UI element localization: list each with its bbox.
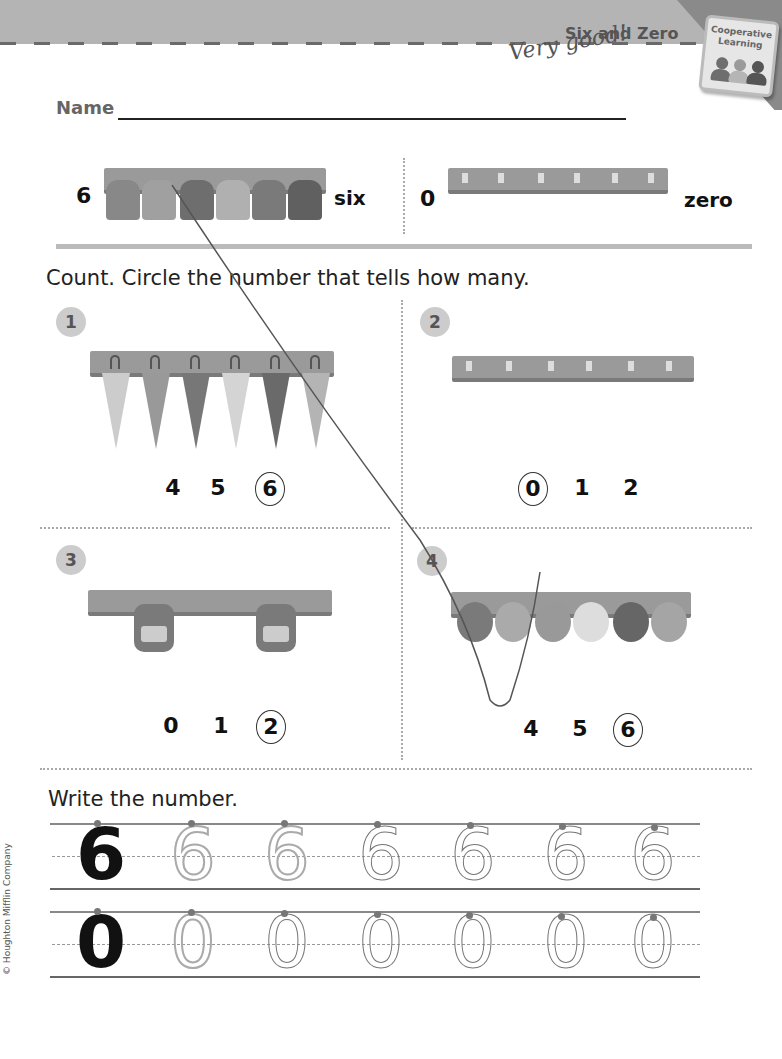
written-digit-0[interactable]: 0 <box>358 906 404 978</box>
start-dot <box>94 908 101 915</box>
intro-number-six: 6 <box>76 183 91 208</box>
trace-digit-6[interactable]: 6 <box>170 818 216 890</box>
umbrella-rack <box>90 351 334 377</box>
name-label: Name <box>56 97 114 118</box>
start-dot <box>374 911 381 918</box>
trace-digit-6[interactable]: 6 <box>264 818 310 890</box>
choice-4-6-circled[interactable]: 6 <box>613 713 643 747</box>
choice-3-0[interactable]: 0 <box>156 713 186 738</box>
count-instruction: Count. Circle the number that tells how … <box>46 266 530 290</box>
choice-3-1[interactable]: 1 <box>206 713 236 738</box>
item-number-4: 4 <box>417 546 447 576</box>
written-digit-6[interactable]: 6 <box>450 818 496 890</box>
section-divider <box>56 244 752 249</box>
start-dot <box>467 822 474 829</box>
people-icon <box>702 49 773 86</box>
intro-word-six: six <box>334 186 366 210</box>
coat-rack <box>104 168 326 194</box>
choice-2-2[interactable]: 2 <box>616 475 646 500</box>
written-digit-6[interactable]: 6 <box>358 818 404 890</box>
row-divider-right <box>412 527 752 529</box>
choice-1-4[interactable]: 4 <box>158 475 188 500</box>
start-dot <box>558 913 565 920</box>
choice-3-2-circled[interactable]: 2 <box>256 710 286 744</box>
choice-1-5[interactable]: 5 <box>203 475 233 500</box>
start-dot <box>651 824 658 831</box>
choice-4-5[interactable]: 5 <box>565 716 595 741</box>
cap-rack <box>451 592 691 618</box>
start-dot <box>650 914 657 921</box>
start-dot <box>281 910 288 917</box>
written-digit-6[interactable]: 6 <box>543 818 589 890</box>
choice-1-6-circled[interactable]: 6 <box>255 472 285 506</box>
item-number-1: 1 <box>56 307 86 337</box>
start-dot <box>559 823 566 830</box>
written-digit-0[interactable]: 0 <box>450 906 496 978</box>
model-digit-6: 6 <box>76 818 126 890</box>
backpack-rack <box>88 590 332 616</box>
empty-rack <box>448 168 668 194</box>
row-divider-left <box>40 527 390 529</box>
item-number-2: 2 <box>420 307 450 337</box>
choice-2-0-circled[interactable]: 0 <box>518 472 548 506</box>
empty-rack-2 <box>452 356 694 382</box>
cooperative-learning-badge: Cooperative Learning <box>698 14 780 97</box>
write-instruction: Write the number. <box>48 787 238 811</box>
items-vertical-divider <box>401 300 403 760</box>
start-dot <box>188 909 195 916</box>
start-dot <box>188 820 195 827</box>
start-dot <box>374 821 381 828</box>
choice-2-1[interactable]: 1 <box>567 475 597 500</box>
trace-digit-0[interactable]: 0 <box>170 906 216 978</box>
name-input-line[interactable] <box>118 118 626 120</box>
written-digit-0[interactable]: 0 <box>264 906 310 978</box>
section2-divider <box>40 768 752 770</box>
start-dot <box>94 820 101 827</box>
start-dot <box>466 912 473 919</box>
intro-word-zero: zero <box>684 188 733 212</box>
intro-divider <box>403 158 405 234</box>
start-dot <box>281 820 288 827</box>
intro-number-zero: 0 <box>420 186 435 211</box>
copyright: © Houghton Mifflin Company <box>2 843 12 975</box>
choice-4-4[interactable]: 4 <box>516 716 546 741</box>
model-digit-0: 0 <box>76 906 126 978</box>
written-digit-0[interactable]: 0 <box>543 906 589 978</box>
item-number-3: 3 <box>56 545 86 575</box>
